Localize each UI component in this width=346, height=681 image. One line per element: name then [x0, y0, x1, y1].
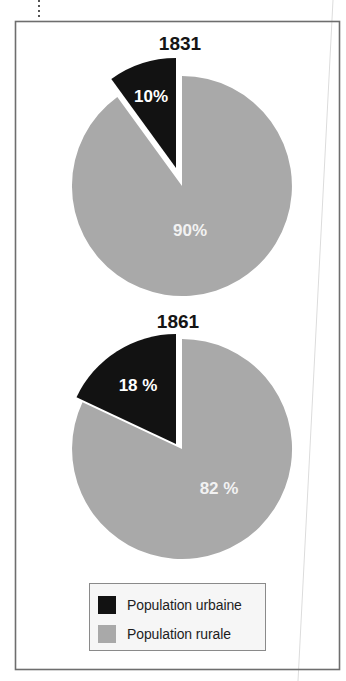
page-fold-line: [298, 0, 333, 681]
chart-year-label: 1861: [157, 311, 200, 332]
legend-swatch-urban: [98, 596, 116, 614]
pie-slice-rural: [72, 76, 292, 296]
pie-charts-svg: 1831 10% 90% 1861 18 % 82 %: [0, 0, 346, 681]
legend-item-rural: Population rurale: [98, 625, 243, 643]
legend-label: Population urbaine: [127, 596, 242, 614]
urban-percent-label: 18 %: [119, 376, 158, 395]
rural-percent-label: 90%: [173, 221, 207, 240]
legend-item-urban: Population urbaine: [98, 596, 254, 614]
rural-percent-label: 82 %: [200, 479, 239, 498]
urban-percent-label: 10%: [134, 87, 168, 106]
chart-figure: 1831 10% 90% 1861 18 % 82 % Population u…: [0, 0, 346, 681]
pie-chart-1861: 1861 18 % 82 %: [72, 311, 292, 559]
figure-frame: [16, 22, 340, 670]
chart-year-label: 1831: [159, 33, 202, 54]
legend-swatch-rural: [98, 625, 116, 643]
chart-legend: Population urbaine Population rurale: [89, 583, 266, 651]
pie-chart-1831: 1831 10% 90%: [72, 33, 292, 296]
legend-label: Population rurale: [127, 625, 231, 643]
